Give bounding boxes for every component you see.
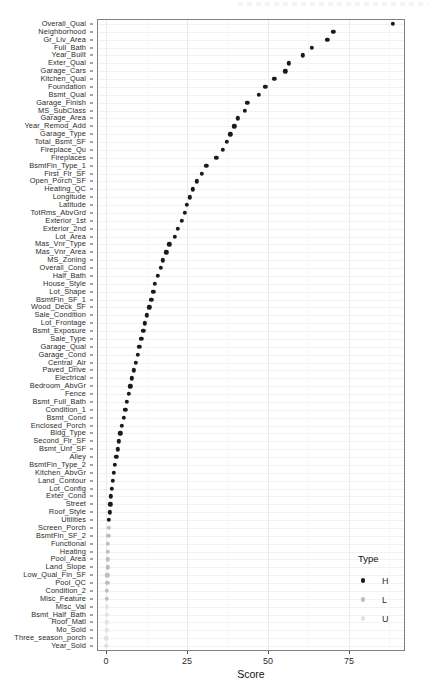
y-axis-tick-mark [90, 370, 93, 371]
gridline-horizontal [98, 363, 404, 364]
gridline-horizontal [98, 339, 404, 340]
y-axis-tick-mark [90, 378, 93, 379]
data-point [125, 400, 129, 404]
gridline-horizontal [98, 284, 404, 285]
gridline-horizontal [98, 111, 404, 112]
y-axis-tick-mark [90, 126, 93, 127]
y-axis-tick-mark [90, 63, 93, 64]
y-axis-tick-mark [90, 165, 93, 166]
data-point [167, 242, 171, 246]
data-point [179, 219, 183, 223]
gridline-horizontal [98, 489, 404, 490]
y-axis-tick-mark [90, 228, 93, 229]
gridline-horizontal [98, 103, 404, 104]
data-point [106, 526, 110, 530]
top-edge-artifact [238, 2, 428, 6]
y-axis-tick-mark [90, 464, 93, 465]
gridline-horizontal [98, 63, 404, 64]
gridline-horizontal [98, 205, 404, 206]
data-point [116, 447, 120, 451]
data-point [127, 392, 131, 396]
legend-swatch [352, 597, 374, 601]
gridline-horizontal [98, 174, 404, 175]
data-point [104, 644, 108, 648]
y-axis-tick-mark [90, 386, 93, 387]
y-axis-tick-mark [90, 39, 93, 40]
y-axis-tick-mark [90, 567, 93, 568]
data-point [128, 384, 132, 388]
data-point [106, 557, 110, 561]
gridline-horizontal [98, 292, 404, 293]
legend-label: U [382, 614, 389, 624]
gridline-horizontal [98, 87, 404, 88]
y-axis-tick-mark [90, 86, 93, 87]
x-axis-tick-label: 0 [104, 656, 109, 666]
x-axis-tick-mark [106, 651, 107, 654]
gridline-horizontal [98, 544, 404, 545]
legend-dot-icon [361, 616, 365, 620]
data-point [135, 352, 139, 356]
y-axis-tick-mark [90, 173, 93, 174]
data-point [232, 124, 236, 128]
gridline-horizontal [98, 426, 404, 427]
data-point [147, 305, 151, 309]
gridline-horizontal [98, 268, 404, 269]
gridline-horizontal [98, 449, 404, 450]
gridline-horizontal [98, 118, 404, 119]
y-axis-tick-mark [90, 315, 93, 316]
y-axis-tick-mark [90, 79, 93, 80]
data-point [283, 69, 287, 73]
gridline-vertical-minor [147, 20, 148, 650]
y-axis-tick-mark [90, 488, 93, 489]
y-axis-labels: Overall_QualNeighborhoodGr_Liv_AreaFull_… [0, 19, 93, 651]
data-point [104, 636, 108, 640]
y-axis-tick-mark [90, 535, 93, 536]
legend-title: Type [358, 553, 412, 564]
data-point [105, 597, 109, 601]
gridline-horizontal [98, 150, 404, 151]
y-axis-tick-mark [90, 583, 93, 584]
y-axis-tick-mark [90, 472, 93, 473]
gridline-horizontal [98, 394, 404, 395]
data-point [301, 53, 305, 57]
data-point [105, 581, 109, 585]
y-axis-tick-mark [90, 394, 93, 395]
gridline-horizontal [98, 504, 404, 505]
legend-rows: HLU [352, 571, 412, 628]
y-axis-tick-mark [90, 480, 93, 481]
data-point [156, 274, 160, 278]
gridline-horizontal [98, 126, 404, 127]
data-point [242, 108, 246, 112]
x-axis-tick-label: 25 [182, 656, 192, 666]
gridline-horizontal [98, 244, 404, 245]
data-point [106, 534, 110, 538]
gridline-horizontal [98, 646, 404, 647]
data-point [164, 250, 168, 254]
data-point [105, 628, 109, 632]
y-axis-tick-mark [90, 323, 93, 324]
gridline-vertical-major [268, 20, 269, 650]
y-axis-tick-mark [90, 354, 93, 355]
legend-item[interactable]: H [352, 571, 412, 590]
y-axis-tick-mark [90, 275, 93, 276]
y-axis-tick-mark [90, 71, 93, 72]
data-point [141, 329, 145, 333]
gridline-horizontal [98, 40, 404, 41]
y-axis-tick-mark [90, 638, 93, 639]
data-point [114, 455, 118, 459]
y-axis-tick-mark [90, 110, 93, 111]
gridline-horizontal [98, 252, 404, 253]
data-point [173, 234, 177, 238]
data-point [120, 423, 124, 427]
y-axis-tick-mark [90, 409, 93, 410]
data-point [187, 195, 191, 199]
data-point [107, 518, 111, 522]
data-point [257, 93, 261, 97]
data-point [106, 541, 110, 545]
x-axis-tick-mark [349, 651, 350, 654]
legend-item[interactable]: L [352, 590, 412, 609]
legend-item[interactable]: U [352, 609, 412, 628]
gridline-horizontal [98, 347, 404, 348]
y-axis-tick-label: Year_Sold [51, 642, 86, 649]
gridline-horizontal [98, 79, 404, 80]
